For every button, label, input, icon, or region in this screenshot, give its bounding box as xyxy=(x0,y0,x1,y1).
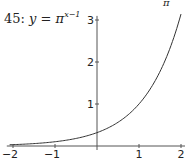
tick-labels: −2−112123 xyxy=(2,14,185,161)
plot-area: −2−112123 xyxy=(0,0,185,164)
y-tick-label: 1 xyxy=(87,98,94,111)
x-tick-label: 1 xyxy=(136,148,143,161)
y-tick-label: 2 xyxy=(87,56,94,69)
function-curve xyxy=(10,14,181,145)
axes xyxy=(7,16,185,150)
y-tick-label: 3 xyxy=(87,14,94,27)
x-tick-label: −2 xyxy=(2,148,18,161)
x-tick-label: −1 xyxy=(44,148,60,161)
x-tick-label: 2 xyxy=(178,148,185,161)
